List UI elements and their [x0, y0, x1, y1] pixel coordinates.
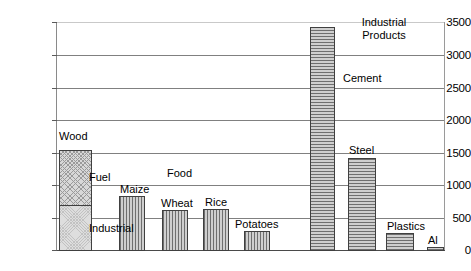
group-label-industrial-products: Industrial Products — [344, 16, 424, 42]
y-axis-line — [56, 22, 57, 250]
label-potatoes: Potatoes — [235, 218, 278, 230]
label-wheat: Wheat — [161, 197, 193, 209]
group-label-industrial-products-line2: Products — [362, 29, 405, 41]
bar-steel — [348, 158, 376, 251]
tick-mark-3000 — [52, 55, 57, 56]
bar-wheat — [162, 210, 188, 251]
y-tick-label-3000: 3000 — [425, 50, 471, 60]
tick-mark-3500 — [52, 22, 57, 23]
gridline-3000 — [56, 55, 445, 56]
y-tick-label-500: 500 — [425, 213, 471, 223]
label-wood: Wood — [59, 130, 88, 142]
label-industrial: Industrial — [89, 222, 134, 234]
bar-plastics — [386, 233, 414, 251]
bar-al — [427, 247, 444, 251]
label-cement: Cement — [343, 72, 382, 84]
y-tick-label-1500: 1500 — [425, 148, 471, 158]
bar-rice — [203, 209, 229, 251]
label-steel: Steel — [349, 144, 374, 156]
tick-mark-2500 — [52, 88, 57, 89]
group-label-food: Food — [167, 167, 192, 179]
y-tick-label-2500: 2500 — [425, 83, 471, 93]
y-tick-label-3500: 3500 — [425, 17, 471, 27]
label-fuel: Fuel — [89, 171, 110, 183]
label-maize: Maize — [120, 183, 149, 195]
label-rice: Rice — [205, 196, 227, 208]
label-al: Al — [428, 234, 438, 246]
tick-mark-1000 — [52, 185, 57, 186]
tick-mark-2000 — [52, 120, 57, 121]
bar-potatoes — [244, 231, 270, 251]
gridline-1000 — [56, 185, 445, 186]
bar-wood-fuel — [59, 150, 92, 206]
y-tick-label-2000: 2000 — [425, 115, 471, 125]
label-plastics: Plastics — [387, 220, 425, 232]
gridline-2500 — [56, 88, 445, 89]
group-label-industrial-products-line1: Industrial — [362, 16, 407, 28]
bar-cement — [310, 27, 335, 251]
tick-mark-0 — [52, 250, 57, 251]
gridline-1500 — [56, 153, 445, 154]
bar-wood-industrial — [59, 205, 92, 251]
tick-mark-500 — [52, 218, 57, 219]
y-tick-label-1000: 1000 — [425, 180, 471, 190]
tick-mark-1500 — [52, 153, 57, 154]
bar-chart: 3500 3000 2500 2000 1500 1000 500 0 Wood… — [0, 0, 471, 271]
gridline-2000 — [56, 120, 445, 121]
